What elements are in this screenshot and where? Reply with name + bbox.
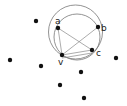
point (79, 70, 83, 74)
point-set-diagram: abcv (0, 0, 127, 106)
point (39, 64, 43, 68)
point-a (56, 26, 60, 30)
point-label-v: v (58, 57, 64, 67)
point-b (96, 25, 100, 29)
edge-a-c (58, 28, 92, 50)
point-c (90, 48, 94, 52)
point-label-b: b (101, 23, 107, 33)
point-label-c: c (96, 48, 101, 58)
point (34, 19, 38, 23)
point (114, 56, 118, 60)
point (82, 96, 86, 100)
outer-circle (49, 5, 103, 59)
point (8, 58, 12, 62)
point-label-a: a (55, 16, 61, 26)
diagram-canvas: abcv (0, 0, 127, 106)
edge-v-c (62, 50, 92, 55)
point (58, 83, 62, 87)
